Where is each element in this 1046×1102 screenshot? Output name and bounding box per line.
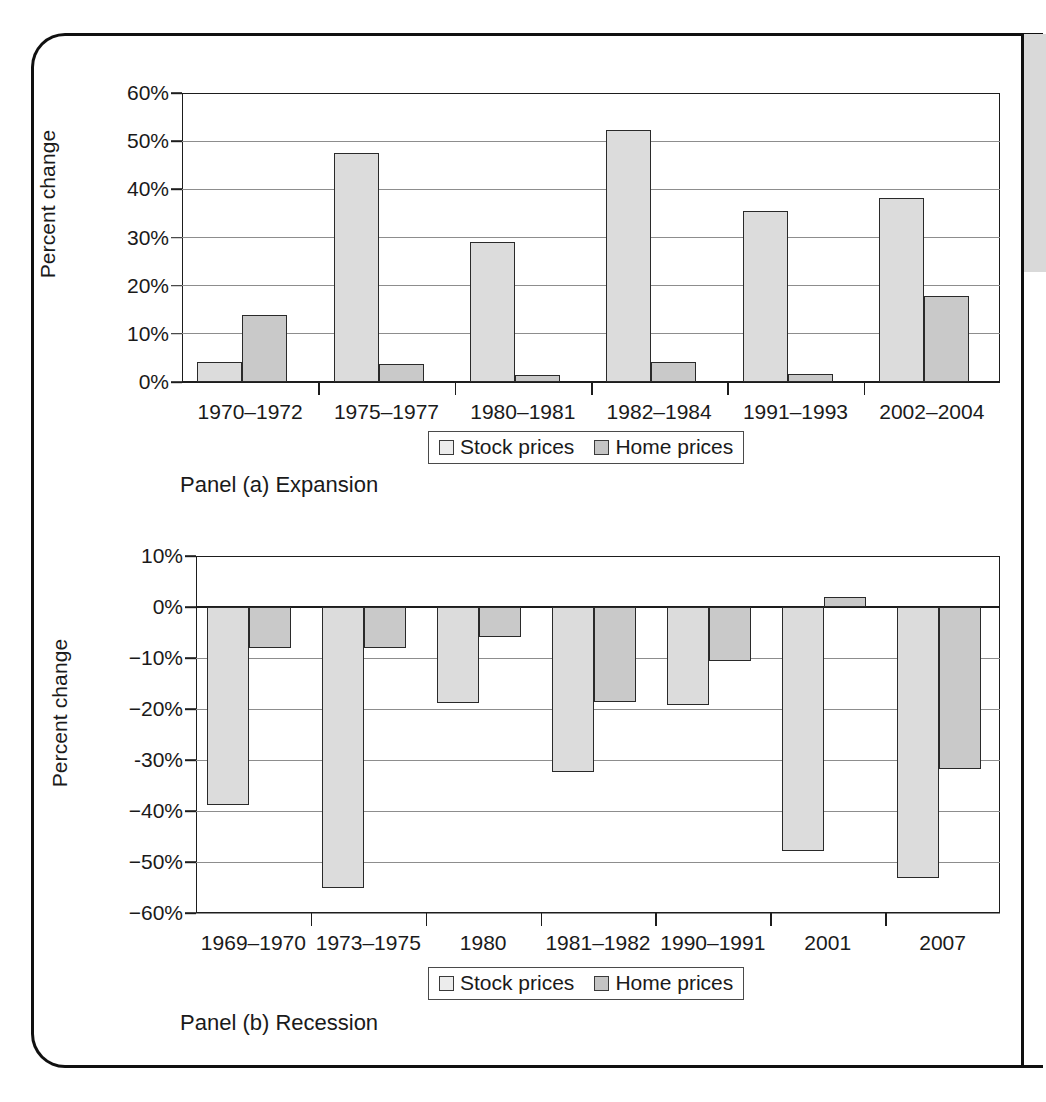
x-axis-tick-mark (455, 382, 457, 395)
bar-stock-0 (207, 607, 249, 805)
bar-home-3 (651, 362, 696, 382)
y-axis-tick-label: 10% (127, 322, 169, 346)
gridline (196, 709, 1000, 710)
legend-item-stock-prices: Stock prices (439, 435, 574, 459)
y-axis-tick-mark (171, 189, 182, 191)
x-axis-tick-mark (311, 913, 313, 926)
x-axis-tick-mark (864, 382, 866, 395)
legend-item-home-prices: Home prices (594, 971, 733, 995)
y-axis-tick-mark (185, 555, 196, 557)
bar-stock-3 (606, 130, 651, 382)
y-axis-tick-label: 30% (127, 226, 169, 250)
y-axis-tick-label: −60% (129, 901, 183, 925)
x-axis-tick-label: 2001 (804, 931, 851, 955)
x-axis-tick-mark (727, 382, 729, 395)
legend-swatch-home-icon (594, 976, 609, 991)
gridline (182, 141, 1000, 142)
x-axis-tick-label: 1969–1970 (201, 931, 306, 955)
bar-home-3 (594, 607, 636, 702)
legend-label-stock-prices: Stock prices (460, 435, 574, 459)
y-axis-tick-label: 20% (127, 274, 169, 298)
bar-stock-3 (552, 607, 594, 772)
bar-home-0 (242, 315, 287, 382)
legend-label-home-prices: Home prices (615, 971, 733, 995)
y-axis-tick-label: −20% (129, 697, 183, 721)
y-axis-tick-mark (185, 861, 196, 863)
x-axis-tick-label: 2007 (919, 931, 966, 955)
bar-stock-6 (897, 607, 939, 878)
gridline (196, 862, 1000, 863)
bar-home-4 (709, 607, 751, 661)
legend-item-home-prices: Home prices (594, 435, 733, 459)
y-axis-tick-mark (185, 810, 196, 812)
x-axis-tick-mark (885, 913, 887, 926)
x-axis-tick-label: 1973–1975 (316, 931, 421, 955)
gridline (196, 811, 1000, 812)
panel-a-legend: Stock prices Home prices (428, 431, 744, 464)
bar-home-5 (824, 597, 866, 607)
y-axis-tick-label: 50% (127, 129, 169, 153)
x-axis-tick-mark (426, 913, 428, 926)
x-axis-tick-label: 1980 (460, 931, 507, 955)
x-axis-tick-label: 1980–1981 (470, 400, 575, 424)
y-axis-tick-label: −10% (129, 646, 183, 670)
bar-home-2 (515, 375, 560, 382)
x-axis-tick-label: 2002–2004 (879, 400, 984, 424)
y-axis-tick-label: −40% (129, 799, 183, 823)
bar-home-1 (379, 364, 424, 382)
y-axis-tick-mark (171, 92, 182, 94)
legend-swatch-home-icon (594, 440, 609, 455)
y-axis-tick-mark (185, 912, 196, 914)
legend-swatch-stock-icon (439, 976, 454, 991)
x-axis-tick-label: 1982–1984 (607, 400, 712, 424)
panel-b-legend: Stock prices Home prices (428, 967, 744, 1000)
bar-stock-5 (782, 607, 824, 851)
x-axis-tick-label: 1990–1991 (660, 931, 765, 955)
bar-stock-1 (334, 153, 379, 382)
bar-stock-2 (470, 242, 515, 382)
y-axis-tick-mark (171, 237, 182, 239)
legend-label-stock-prices: Stock prices (460, 971, 574, 995)
gridline (182, 333, 1000, 334)
y-axis-tick-label: 10% (141, 544, 183, 568)
bar-home-2 (479, 607, 521, 637)
panel-b-recession: Percent change 10%0%−10%−20%-30%−40%−50%… (0, 516, 1012, 1036)
panel-a-y-axis-label: Percent change (36, 114, 60, 294)
x-axis-tick-mark (655, 913, 657, 926)
bar-stock-0 (197, 362, 242, 382)
legend-swatch-stock-icon (439, 440, 454, 455)
y-axis-tick-label: −50% (129, 850, 183, 874)
y-axis-tick-mark (171, 285, 182, 287)
y-axis-tick-mark (185, 708, 196, 710)
panel-a-caption: Panel (a) Expansion (180, 472, 378, 498)
bar-home-1 (364, 607, 406, 648)
bar-stock-2 (437, 607, 479, 703)
bar-home-5 (924, 296, 969, 382)
y-axis-tick-mark (171, 140, 182, 142)
bar-home-0 (249, 607, 291, 648)
legend-item-stock-prices: Stock prices (439, 971, 574, 995)
right-margin-grey-strip (1024, 34, 1046, 272)
bar-home-4 (788, 374, 833, 382)
x-axis-tick-mark (770, 913, 772, 926)
panel-b-caption: Panel (b) Recession (180, 1010, 378, 1036)
bar-stock-1 (322, 607, 364, 888)
gridline (182, 189, 1000, 190)
y-axis-tick-mark (185, 606, 196, 608)
y-axis-tick-label: 0% (153, 595, 183, 619)
x-axis-tick-label: 1970–1972 (198, 400, 303, 424)
bar-home-6 (939, 607, 981, 769)
y-axis-tick-mark (171, 381, 182, 383)
x-axis-tick-mark (318, 382, 320, 395)
x-axis-tick-label: 1991–1993 (743, 400, 848, 424)
bar-stock-5 (879, 198, 924, 382)
x-axis-tick-mark (591, 382, 593, 395)
y-axis-tick-mark (171, 333, 182, 335)
x-axis-tick-mark (541, 913, 543, 926)
x-axis-tick-label: 1981–1982 (545, 931, 650, 955)
y-axis-tick-mark (185, 759, 196, 761)
panel-b-plot-area: 10%0%−10%−20%-30%−40%−50%−60%1969–197019… (196, 556, 1000, 913)
gridline (196, 760, 1000, 761)
gridline (182, 285, 1000, 286)
legend-label-home-prices: Home prices (615, 435, 733, 459)
